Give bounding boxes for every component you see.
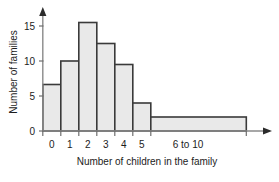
y-axis-title: Number of families bbox=[8, 30, 19, 113]
histogram-figure: 0 5 10 15 0 1 2 3 4 5 6 to 10 Number of … bbox=[0, 0, 279, 182]
x-tick-label-0: 0 bbox=[49, 139, 55, 150]
y-tick-label-15: 15 bbox=[24, 21, 36, 32]
bar-1 bbox=[61, 61, 79, 131]
x-tick-label-2: 2 bbox=[85, 139, 91, 150]
bars-group bbox=[43, 23, 247, 132]
x-axis-arrow-icon bbox=[263, 127, 272, 134]
y-tick-label-5: 5 bbox=[29, 91, 35, 102]
bar-6-to-10 bbox=[151, 117, 247, 131]
y-tick-label-10: 10 bbox=[24, 56, 36, 67]
x-tick-label-6-to-10: 6 to 10 bbox=[173, 139, 204, 150]
bar-5 bbox=[133, 103, 151, 131]
bar-0 bbox=[43, 85, 61, 132]
bar-4 bbox=[115, 65, 133, 132]
bar-2 bbox=[79, 23, 97, 132]
x-tick-label-5: 5 bbox=[139, 139, 145, 150]
x-axis-title: Number of children in the family bbox=[77, 156, 218, 167]
histogram-svg: 0 5 10 15 0 1 2 3 4 5 6 to 10 Number of … bbox=[0, 0, 279, 182]
x-tick-label-3: 3 bbox=[103, 139, 109, 150]
x-tick-label-4: 4 bbox=[121, 139, 127, 150]
bar-3 bbox=[97, 44, 115, 132]
y-axis-arrow-icon bbox=[39, 7, 46, 16]
x-tick-label-1: 1 bbox=[67, 139, 73, 150]
y-tick-label-0: 0 bbox=[29, 126, 35, 137]
